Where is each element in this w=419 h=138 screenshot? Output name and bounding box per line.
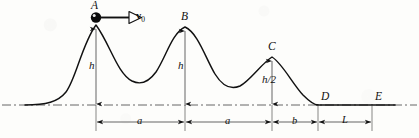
point-label-c: C	[268, 41, 276, 53]
point-label-e: E	[375, 91, 382, 103]
height-label-b: h	[178, 60, 184, 71]
track-curve	[25, 25, 395, 105]
ball-at-a	[91, 12, 101, 22]
track-diagram	[0, 0, 419, 138]
span-label-a1: a	[137, 116, 142, 127]
velocity-subscript: 0	[141, 15, 145, 24]
initial-velocity-label: v0	[136, 11, 145, 24]
span-label-L: L	[342, 115, 348, 126]
height-label-c: h/2	[262, 74, 276, 85]
span-label-b: b	[292, 116, 297, 127]
point-label-d: D	[321, 91, 329, 103]
point-label-b: B	[181, 11, 188, 23]
span-label-a2: a	[225, 116, 230, 127]
point-label-a: A	[91, 0, 98, 12]
height-label-a: h	[89, 60, 95, 71]
